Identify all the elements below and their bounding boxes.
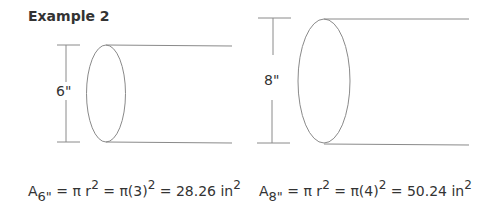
- area-symbol: A: [28, 183, 38, 199]
- cylinder-6in: [57, 45, 232, 143]
- exponent: 2: [148, 178, 156, 192]
- dimension-label-8in: 8": [264, 71, 279, 89]
- formula-term: = π r: [287, 183, 322, 199]
- area-symbol: A: [259, 183, 269, 199]
- exponent: 2: [379, 178, 387, 192]
- area-subscript: 8": [269, 189, 283, 204]
- exponent: 2: [91, 178, 99, 192]
- dimension-label-6in: 6": [56, 82, 71, 100]
- exponent: 2: [233, 178, 241, 192]
- area-formula-6in: A6" = π r2 = π(3)2 = 28.26 in2: [28, 178, 241, 204]
- area-subscript: 6": [38, 189, 52, 204]
- formula-term: = π r: [56, 183, 91, 199]
- formula-result: = 50.24 in: [391, 183, 464, 199]
- formula-term: = π(3): [103, 183, 147, 199]
- formula-result: = 28.26 in: [160, 183, 233, 199]
- exponent: 2: [464, 178, 472, 192]
- exponent: 2: [322, 178, 330, 192]
- area-formula-8in: A8" = π r2 = π(4)2 = 50.24 in2: [259, 178, 472, 204]
- cylinder-8in: [257, 18, 469, 145]
- formula-term: = π(4): [334, 183, 378, 199]
